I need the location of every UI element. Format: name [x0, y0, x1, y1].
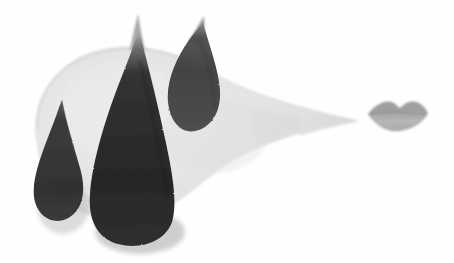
paper-grain-overlay	[0, 0, 454, 263]
artwork-svg	[0, 0, 454, 263]
artwork-canvas: Abstract Ink and Watercolor Composition	[0, 0, 454, 263]
